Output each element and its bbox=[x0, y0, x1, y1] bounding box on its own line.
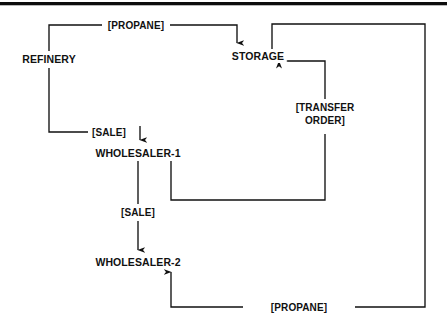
edge-label-transfer-order-line1: [TRANSFER bbox=[296, 101, 355, 114]
edge-label-transfer-order: [TRANSFER ORDER] bbox=[293, 100, 358, 128]
node-refinery: REFINERY bbox=[19, 52, 79, 66]
edge-label-propane-bottom: [PROPANE] bbox=[267, 301, 331, 315]
edge-storage-to-wholesaler2-seg-a bbox=[272, 24, 425, 307]
diagram-canvas: REFINERY STORAGE WHOLESALER-1 WHOLESALER… bbox=[0, 0, 447, 329]
edge-label-sale-wholesaler: [SALE] bbox=[117, 206, 159, 220]
edge-storage-to-wholesaler2-seg-b bbox=[171, 284, 243, 307]
edge-label-sale-refinery: [SALE] bbox=[88, 126, 130, 140]
node-storage: STORAGE bbox=[229, 49, 287, 63]
edge-label-transfer-order-line2: ORDER] bbox=[296, 114, 355, 127]
node-wholesaler-2: WHOLESALER-2 bbox=[92, 255, 183, 269]
edge-refinery-to-storage-seg-b bbox=[170, 25, 237, 37]
edge-refinery-to-storage-seg-a bbox=[49, 25, 102, 51]
edge-wholesaler1-to-storage-seg-a bbox=[171, 134, 325, 200]
edge-refinery-to-wholesaler1-seg bbox=[49, 68, 88, 132]
flow-connectors bbox=[0, 0, 447, 329]
edge-wholesaler1-to-storage-seg-b bbox=[288, 61, 325, 99]
node-wholesaler-1: WHOLESALER-1 bbox=[92, 146, 183, 160]
edge-label-propane-top: [PROPANE] bbox=[104, 19, 168, 33]
